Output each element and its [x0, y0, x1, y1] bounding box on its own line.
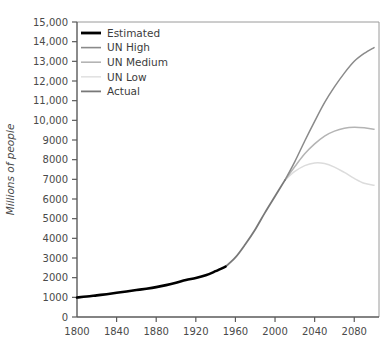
x-tick-label: 2000: [262, 326, 287, 337]
legend-label: UN High: [107, 41, 150, 53]
x-tick-label: 1800: [64, 326, 89, 337]
legend-item: UN High: [81, 41, 150, 53]
chart-canvas: 010002000300040005000600070008000900010,…: [0, 0, 392, 350]
y-tick-label: 9000: [43, 135, 68, 146]
population-growth-chart: 010002000300040005000600070008000900010,…: [0, 0, 392, 350]
legend-label: UN Low: [107, 71, 147, 83]
chart-legend: EstimatedUN HighUN MediumUN LowActual: [81, 27, 168, 97]
y-tick-label: 7000: [43, 174, 68, 185]
legend-label: Actual: [107, 85, 140, 97]
x-tick-label: 1840: [104, 326, 129, 337]
x-tick-label: 1920: [183, 326, 208, 337]
y-tick-label: 4000: [43, 233, 68, 244]
x-tick-label: 2040: [302, 326, 327, 337]
legend-item: UN Low: [81, 71, 147, 83]
y-axis-ticks: 010002000300040005000600070008000900010,…: [33, 17, 77, 323]
legend-item: Actual: [81, 85, 140, 97]
y-axis-title: Millions of people: [4, 124, 16, 216]
x-axis-ticks: 18001840188019201960200020402080: [64, 317, 367, 337]
y-tick-label: 13,000: [33, 56, 68, 67]
y-tick-label: 6000: [43, 194, 68, 205]
series-line: [77, 267, 226, 298]
series-line: [285, 48, 374, 181]
y-tick-label: 1000: [43, 292, 68, 303]
y-tick-label: 10,000: [33, 115, 68, 126]
y-tick-label: 3000: [43, 253, 68, 264]
legend-item: UN Medium: [81, 56, 168, 68]
y-tick-label: 15,000: [33, 17, 68, 28]
y-tick-label: 8000: [43, 154, 68, 165]
y-tick-label: 12,000: [33, 76, 68, 87]
series-line: [285, 163, 374, 185]
y-tick-label: 0: [62, 312, 68, 323]
legend-item: Estimated: [81, 27, 160, 39]
x-tick-label: 1880: [143, 326, 168, 337]
y-tick-label: 2000: [43, 272, 68, 283]
x-tick-label: 2080: [342, 326, 367, 337]
y-tick-label: 5000: [43, 213, 68, 224]
x-tick-label: 1960: [223, 326, 248, 337]
legend-label: Estimated: [107, 27, 160, 39]
legend-label: UN Medium: [107, 56, 168, 68]
series-line: [226, 180, 285, 267]
y-tick-label: 14,000: [33, 36, 68, 47]
y-tick-label: 11,000: [33, 95, 68, 106]
